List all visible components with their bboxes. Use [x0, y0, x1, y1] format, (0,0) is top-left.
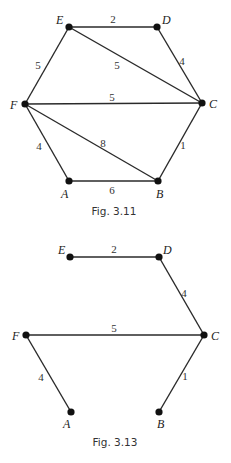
- node-label: E: [57, 243, 66, 257]
- edge-weight-label: 1: [182, 370, 188, 382]
- node-label: C: [209, 97, 218, 111]
- edge-weight-label: 6: [109, 184, 115, 196]
- edge-f-b: [25, 104, 158, 181]
- figure-3-13: 24541EDCFABFig. 3.13: [11, 243, 220, 448]
- node-label: D: [162, 243, 172, 257]
- node-d: [155, 253, 162, 260]
- edge-weight-label: 5: [111, 322, 117, 334]
- edge-f-c: [25, 103, 202, 104]
- figure-caption: Fig. 3.13: [93, 436, 138, 448]
- node-label: E: [55, 13, 64, 27]
- edge-weight-label: 4: [179, 55, 185, 67]
- node-b: [154, 177, 161, 184]
- figure-3-11: 254554816EDCFABFig. 3.11: [9, 13, 218, 217]
- node-c: [200, 331, 207, 338]
- node-label: B: [157, 417, 165, 431]
- edge-weight-label: 2: [110, 13, 116, 25]
- figure-caption: Fig. 3.11: [92, 205, 137, 217]
- node-a: [65, 177, 72, 184]
- node-label: F: [9, 98, 18, 112]
- edge-weight-label: 8: [100, 137, 106, 149]
- node-label: C: [211, 329, 220, 343]
- node-c: [198, 99, 205, 106]
- edge-weight-label: 4: [38, 371, 44, 383]
- node-label: D: [161, 13, 171, 27]
- edge-f-a: [25, 104, 69, 181]
- node-f: [22, 331, 29, 338]
- edge-weight-label: 5: [35, 59, 41, 71]
- node-f: [21, 100, 28, 107]
- node-d: [153, 23, 160, 30]
- node-b: [155, 408, 162, 415]
- edge-weight-label: 2: [111, 243, 117, 255]
- edge-weight-label: 4: [36, 140, 42, 152]
- edge-weight-label: 1: [180, 139, 186, 151]
- node-a: [67, 408, 74, 415]
- node-e: [66, 253, 73, 260]
- graph-canvas: 254554816EDCFABFig. 3.11 24541EDCFABFig.…: [0, 0, 231, 463]
- node-label: A: [60, 187, 69, 201]
- node-e: [65, 23, 72, 30]
- node-label: B: [156, 187, 164, 201]
- edge-weight-label: 4: [181, 287, 187, 299]
- node-label: F: [11, 329, 20, 343]
- edge-weight-label: 5: [109, 91, 115, 103]
- edge-weight-label: 5: [114, 59, 120, 71]
- edge-f-a: [26, 335, 71, 412]
- node-label: A: [62, 417, 71, 431]
- edge-e-f: [25, 27, 69, 104]
